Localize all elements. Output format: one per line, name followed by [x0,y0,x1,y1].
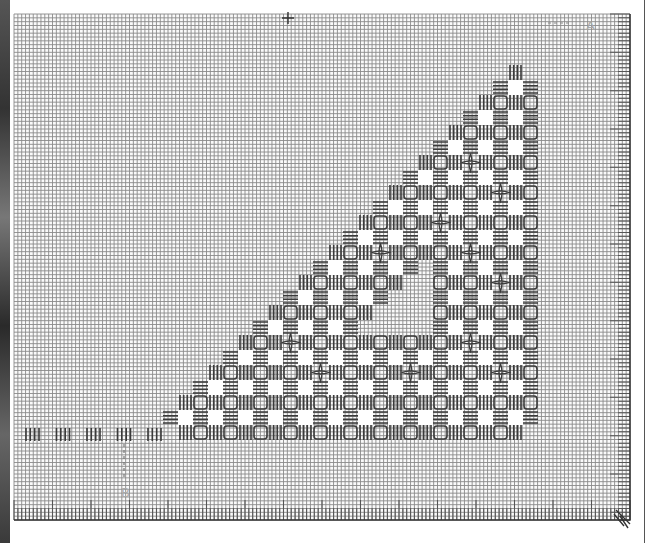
cut-square [298,320,313,335]
cut-square [328,260,343,275]
cut-square [388,230,403,245]
cut-square [358,230,373,245]
cut-square [508,140,523,155]
cut-square [508,260,523,275]
cut-square [418,200,433,215]
cut-square [328,290,343,305]
cut-square [508,320,523,335]
cut-square [448,410,463,425]
cut-square [328,410,343,425]
cut-square [268,320,283,335]
cut-square [478,290,493,305]
cut-square [508,350,523,365]
cut-square [508,200,523,215]
cut-square [448,200,463,215]
cut-square [418,170,433,185]
cut-square [238,410,253,425]
cut-square [178,410,193,425]
cut-square [448,290,463,305]
cut-square [388,380,403,395]
cut-square [238,380,253,395]
cut-square [418,410,433,425]
cut-square [478,320,493,335]
cut-square [508,170,523,185]
cut-square [298,290,313,305]
cut-square [508,290,523,305]
cut-square [508,80,523,95]
cut-square [358,350,373,365]
cut-square [328,350,343,365]
marker-a: A [586,18,595,33]
cut-square [358,290,373,305]
cut-square [298,410,313,425]
cut-square [418,230,433,245]
cut-square [478,380,493,395]
cut-square [508,110,523,125]
cut-square [268,380,283,395]
cut-square [388,200,403,215]
cut-square [388,410,403,425]
cut-square [358,380,373,395]
cut-square [448,170,463,185]
cut-square [508,380,523,395]
cut-square [388,260,403,275]
cut-square [478,260,493,275]
marker-b: B [121,485,130,500]
cut-square [478,140,493,155]
cut-square [268,350,283,365]
cut-square [328,320,343,335]
embroidery-chart: A B [0,0,650,543]
cut-square [448,230,463,245]
cut-square [418,350,433,365]
cut-square [448,380,463,395]
cut-square [508,410,523,425]
cut-square [448,140,463,155]
cut-square [448,260,463,275]
cut-square [478,350,493,365]
cut-square [478,230,493,245]
cut-square [298,380,313,395]
cut-square [298,350,313,365]
cut-square [208,410,223,425]
cut-square [478,200,493,215]
cut-square [238,350,253,365]
cut-square [478,110,493,125]
cut-square [478,410,493,425]
cut-square [208,380,223,395]
cut-square [388,350,403,365]
cut-square [418,380,433,395]
cut-square [358,410,373,425]
cut-square [448,350,463,365]
cut-square [268,410,283,425]
cut-square [358,260,373,275]
cut-square [508,230,523,245]
cut-square [478,170,493,185]
cut-square [448,320,463,335]
cut-square [328,380,343,395]
